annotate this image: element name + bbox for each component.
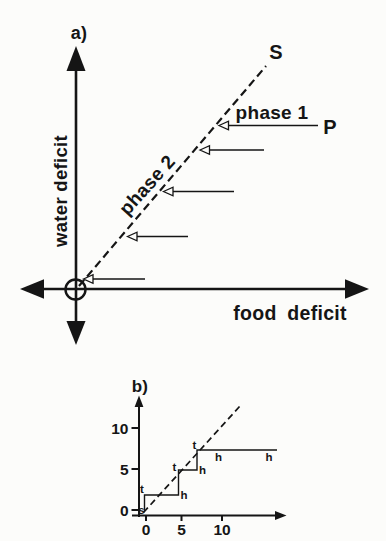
panel-a-label: a) (71, 24, 88, 42)
b-step-marker-h-5: h (199, 464, 206, 476)
point-p-label: P (323, 117, 337, 137)
panel-b-label: b) (132, 378, 149, 395)
panel-a-y-axis-label: water deficit (52, 135, 71, 247)
a-x-axis-left-arrowhead (20, 279, 44, 299)
b-y-tick-label-0: 0 (120, 502, 129, 519)
b-x-axis-arrowhead (275, 511, 287, 520)
b-x-tick-label-5: 5 (177, 521, 186, 538)
trajectory-arrowhead-2 (200, 146, 210, 155)
trajectory-arrowhead-4 (128, 232, 138, 241)
b-step-marker-s-1: s (138, 504, 144, 516)
b-y-axis-arrowhead (135, 396, 144, 408)
switching-line-label: S (269, 42, 283, 62)
b-step-marker-t-4: t (173, 461, 177, 473)
b-y-tick-label-5: 5 (120, 461, 129, 478)
b-trajectory-staircase (145, 450, 278, 511)
b-y-tick-label-10: 10 (111, 420, 128, 437)
figure: 10500510sthththh a) water deficit food d… (0, 0, 386, 541)
a-y-axis-down-arrowhead (67, 321, 86, 345)
a-switching-line-dashed (79, 66, 266, 286)
trajectory-arrowhead-1 (219, 121, 229, 130)
trajectory-arrowhead-3 (164, 187, 174, 196)
b-x-tick-label-0: 0 (142, 521, 151, 538)
b-step-marker-h-3: h (180, 489, 187, 501)
a-x-axis-right-arrowhead (345, 279, 369, 299)
b-x-tick-label-10: 10 (213, 521, 230, 538)
b-step-marker-h-7: h (215, 451, 222, 463)
phase-1-label: phase 1 (236, 103, 309, 122)
b-step-marker-t-6: t (193, 439, 197, 451)
b-step-marker-t-2: t (140, 483, 144, 495)
b-switching-line-dashed (144, 406, 241, 513)
diagram-canvas: 10500510sthththh (0, 0, 386, 541)
a-y-axis-up-arrowhead (67, 46, 86, 71)
b-step-marker-h-8: h (265, 451, 272, 463)
panel-a-x-axis-label: food deficit (233, 304, 347, 324)
